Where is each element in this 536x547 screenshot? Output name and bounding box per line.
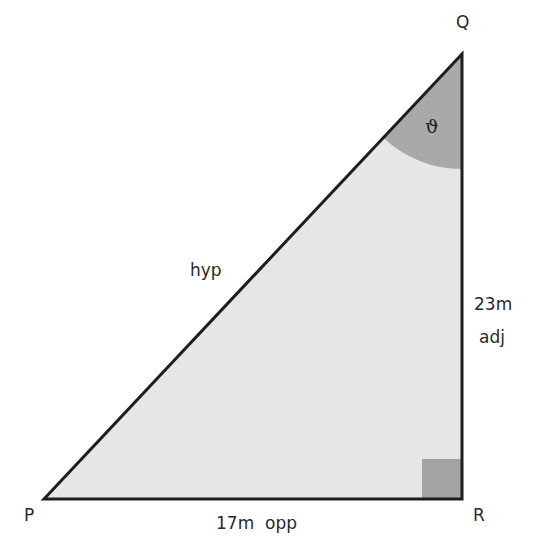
right-angle-marker [422, 459, 462, 499]
angle-theta-label: ϑ [425, 117, 439, 136]
vertex-r-label: R [473, 507, 485, 524]
adjacent-length-label: 23m [474, 296, 512, 313]
opposite-label: 17m opp [216, 515, 297, 532]
adjacent-label: adj [479, 329, 505, 346]
triangle-diagram [0, 0, 536, 547]
vertex-p-label: P [24, 507, 34, 524]
vertex-q-label: Q [456, 14, 469, 31]
hypotenuse-label: hyp [190, 262, 222, 279]
